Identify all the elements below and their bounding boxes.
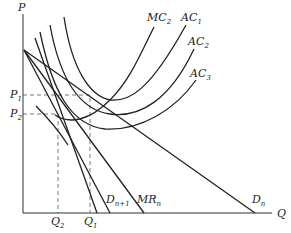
dn1-label: Dn+1 (105, 193, 130, 208)
demand-curve-dn1 (24, 50, 110, 213)
ac2-label: AC2 (187, 35, 209, 50)
y-axis-label: P (17, 1, 26, 14)
quantity-label-q2: Q2 (51, 215, 65, 230)
price-label-p1: P1 (9, 88, 22, 103)
average-cost-curve-ac1 (64, 17, 186, 100)
diagram-canvas: P Q P1 P2 Q2 Q1 MC2 AC1 AC2 AC3 Dn+1 MRn… (0, 0, 291, 233)
marginal-revenue-curve-mrn (24, 50, 144, 213)
ac1-label: AC1 (180, 11, 202, 26)
mrn-label: MRn (136, 193, 162, 208)
average-cost-curve-ac2 (50, 25, 194, 115)
marginal-revenue-curve-steep (35, 38, 97, 213)
cost-demand-diagram: P Q P1 P2 Q2 Q1 MC2 AC1 AC2 AC3 Dn+1 MRn… (0, 0, 291, 233)
dn-label: Dn (251, 193, 266, 208)
mc2-label: MC2 (146, 11, 172, 26)
ac3-label: AC3 (189, 67, 211, 82)
x-axis-label: Q (277, 207, 286, 220)
quantity-label-q1: Q1 (84, 215, 98, 230)
price-label-p2: P2 (9, 107, 22, 122)
